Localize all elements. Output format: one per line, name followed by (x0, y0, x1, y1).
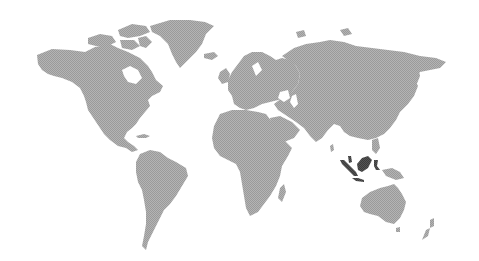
island-new-guinea (382, 168, 404, 180)
highlighted-region-indonesia (340, 156, 380, 182)
continent-asia (270, 28, 446, 154)
continent-australia (360, 184, 434, 240)
world-map-svg (0, 0, 479, 261)
world-map (0, 0, 479, 261)
continent-north-america (37, 20, 214, 152)
continent-south-america (136, 150, 188, 250)
